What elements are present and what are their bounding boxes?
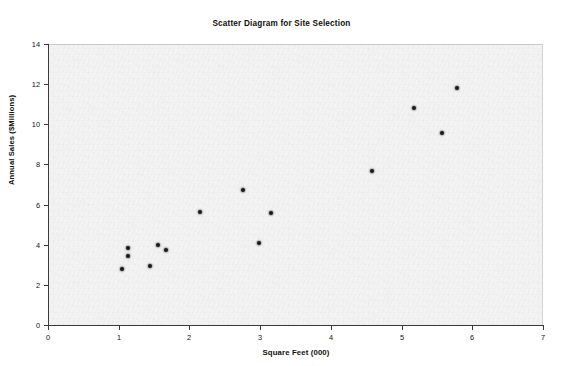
x-tick-6 bbox=[472, 326, 473, 330]
y-tick-label-4: 4 bbox=[0, 241, 40, 250]
data-point bbox=[164, 248, 168, 252]
scatter-chart-figure: Scatter Diagram for Site Selection 02468… bbox=[0, 0, 563, 366]
y-tick-2 bbox=[44, 285, 48, 286]
data-point bbox=[156, 243, 160, 247]
data-point bbox=[440, 131, 444, 135]
data-point bbox=[412, 106, 416, 110]
y-tick-label-10: 10 bbox=[0, 120, 40, 129]
y-tick-label-12: 12 bbox=[0, 80, 40, 89]
plot-area bbox=[48, 44, 543, 325]
data-point bbox=[455, 86, 459, 90]
x-tick-1 bbox=[119, 326, 120, 330]
y-tick-label-0: 0 bbox=[0, 321, 40, 330]
plot-texture-overlay bbox=[48, 44, 543, 325]
x-axis-title: Square Feet (000) bbox=[48, 348, 544, 357]
x-tick-2 bbox=[189, 326, 190, 330]
y-tick-label-6: 6 bbox=[0, 201, 40, 210]
data-point bbox=[198, 210, 202, 214]
page-title: Scatter Diagram for Site Selection bbox=[0, 19, 563, 28]
x-tick-label-7: 7 bbox=[528, 333, 558, 342]
y-tick-12 bbox=[44, 84, 48, 85]
data-point bbox=[126, 246, 130, 250]
x-tick-label-3: 3 bbox=[245, 333, 275, 342]
x-tick-4 bbox=[331, 326, 332, 330]
y-tick-4 bbox=[44, 245, 48, 246]
x-tick-label-4: 4 bbox=[316, 333, 346, 342]
y-axis-title: Annual Sales ($Millions) bbox=[7, 95, 16, 185]
data-point bbox=[120, 267, 124, 271]
data-point bbox=[126, 254, 130, 258]
x-tick-label-5: 5 bbox=[387, 333, 417, 342]
y-tick-label-8: 8 bbox=[0, 160, 40, 169]
x-tick-7 bbox=[543, 326, 544, 330]
y-tick-8 bbox=[44, 164, 48, 165]
data-point bbox=[370, 169, 374, 173]
y-axis-line bbox=[48, 44, 49, 326]
x-tick-3 bbox=[260, 326, 261, 330]
data-point bbox=[257, 241, 261, 245]
x-tick-label-1: 1 bbox=[104, 333, 134, 342]
x-tick-label-2: 2 bbox=[174, 333, 204, 342]
y-tick-14 bbox=[44, 44, 48, 45]
plot-border-top bbox=[48, 44, 543, 45]
y-tick-label-14: 14 bbox=[0, 40, 40, 49]
data-point bbox=[148, 264, 152, 268]
y-tick-10 bbox=[44, 124, 48, 125]
plot-border-right bbox=[542, 44, 543, 325]
data-point bbox=[241, 188, 245, 192]
y-tick-6 bbox=[44, 205, 48, 206]
y-tick-label-2: 2 bbox=[0, 281, 40, 290]
x-tick-5 bbox=[402, 326, 403, 330]
data-point bbox=[269, 211, 273, 215]
x-tick-label-6: 6 bbox=[457, 333, 487, 342]
x-axis-line bbox=[48, 325, 544, 326]
x-tick-0 bbox=[48, 326, 49, 330]
x-tick-label-0: 0 bbox=[33, 333, 63, 342]
